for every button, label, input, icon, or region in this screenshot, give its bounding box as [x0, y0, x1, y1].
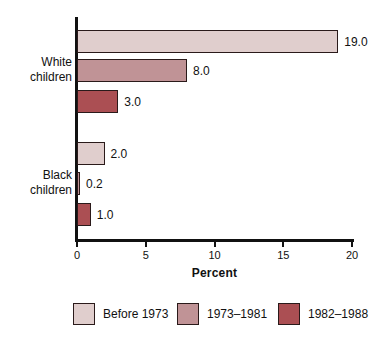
legend-label: 1982–1988	[308, 307, 368, 321]
group-label-black-line1: Black	[2, 168, 72, 183]
legend-item[interactable]: Before 1973	[73, 300, 168, 328]
legend-swatch	[177, 303, 199, 325]
bar	[77, 59, 187, 82]
x-tick-10	[214, 240, 216, 247]
legend-item[interactable]: 1973–1981	[177, 300, 267, 328]
bar-value-label: 8.0	[193, 64, 210, 78]
bar-value-label: 0.2	[86, 177, 103, 191]
bar-chart: 05101520 19.08.03.02.00.21.0 White child…	[0, 0, 387, 341]
bar	[77, 90, 118, 113]
legend-label: Before 1973	[103, 307, 168, 321]
x-tick-label-5: 5	[131, 249, 161, 262]
bar-value-label: 3.0	[124, 95, 141, 109]
group-label-white: White children	[2, 55, 72, 85]
x-axis-title: Percent	[77, 266, 352, 280]
bar-value-label: 1.0	[97, 208, 114, 222]
bar-value-label: 2.0	[111, 147, 128, 161]
x-tick-20	[351, 240, 353, 247]
group-label-black-line2: children	[2, 183, 72, 198]
x-tick-15	[282, 240, 284, 247]
chart-legend: Before 19731973–19811982–1988	[0, 300, 387, 332]
x-tick-label-20: 20	[337, 249, 367, 262]
legend-swatch	[278, 303, 300, 325]
group-label-white-line1: White	[2, 55, 72, 70]
bar	[77, 30, 338, 53]
x-tick-0	[76, 240, 78, 247]
group-label-white-line2: children	[2, 70, 72, 85]
bar	[77, 142, 105, 165]
group-label-black: Black children	[2, 168, 72, 198]
bar	[77, 172, 80, 195]
bar	[77, 203, 91, 226]
x-tick-label-0: 0	[62, 249, 92, 262]
x-tick-label-10: 10	[200, 249, 230, 262]
legend-item[interactable]: 1982–1988	[278, 300, 368, 328]
bar-value-label: 19.0	[344, 35, 367, 49]
x-tick-label-15: 15	[268, 249, 298, 262]
legend-swatch	[73, 303, 95, 325]
legend-label: 1973–1981	[207, 307, 267, 321]
x-tick-5	[145, 240, 147, 247]
